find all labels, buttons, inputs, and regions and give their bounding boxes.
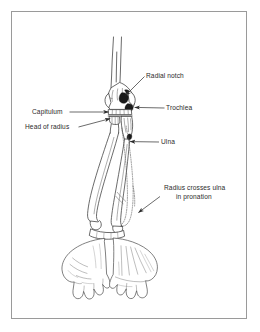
label-trochlea: Trochlea: [166, 104, 192, 111]
radius-head: [109, 117, 120, 134]
ulna-shaft: [111, 139, 130, 233]
leader-head-of-radius: [79, 119, 111, 127]
right-hand: [110, 238, 158, 299]
capitulum-surface: [108, 110, 132, 116]
leader-radius-crosses-ulna: [138, 197, 160, 213]
crossing-point: [116, 192, 126, 204]
label-head-of-radius: Head of radius: [25, 123, 70, 130]
label-radius-crosses-ulna-line2: in pronation: [176, 193, 212, 201]
label-capitulum: Capitulum: [32, 108, 63, 116]
label-trochlea-text: Trochlea: [166, 104, 192, 111]
label-ulna: Ulna: [161, 138, 175, 145]
label-radius-crosses-ulna: Radius crosses ulna in pronation: [164, 184, 226, 201]
left-hand: [62, 238, 110, 299]
label-radius-crosses-ulna-line1: Radius crosses ulna: [164, 184, 226, 191]
leader-radial-notch: [126, 77, 145, 96]
ulna-ghost: [120, 126, 135, 226]
label-head-of-radius-text: Head of radius: [25, 123, 70, 130]
label-ulna-text: Ulna: [161, 138, 175, 145]
label-capitulum-text: Capitulum: [32, 108, 63, 116]
label-radial-notch-text: Radial notch: [146, 72, 184, 79]
radius-shaft: [88, 133, 119, 230]
anatomical-figure: Radial notch Trochlea Capitulum Head of …: [0, 0, 260, 332]
label-radial-notch: Radial notch: [146, 72, 184, 79]
forearm-pronation-illustration: Radial notch Trochlea Capitulum Head of …: [0, 0, 260, 332]
leader-trochlea: [135, 107, 165, 108]
